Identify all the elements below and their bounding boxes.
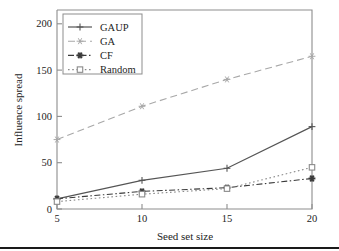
series-line-random	[57, 167, 312, 201]
y-tick-label-50: 50	[42, 157, 53, 168]
data-point-marker-asterisk	[139, 103, 146, 109]
legend-label-random: Random	[100, 64, 136, 75]
data-point-marker-square-open	[139, 191, 144, 196]
data-point-marker-square-open	[224, 186, 229, 191]
series-layer	[54, 53, 316, 204]
figure-container: 0 50 100 150 200 5 10 15 20 Seed set siz…	[0, 0, 339, 251]
y-tick-label-200: 200	[36, 18, 52, 29]
x-tick-label-15: 15	[222, 213, 233, 224]
x-axis-title: Seed set size	[157, 230, 213, 242]
y-tick-label-0: 0	[47, 204, 52, 215]
data-point-marker-asterisk	[224, 76, 231, 82]
x-axis-ticks	[57, 204, 312, 209]
y-axis-title: Influence spread	[12, 73, 24, 146]
series-line-cf	[57, 178, 312, 198]
series-gaup	[54, 123, 316, 202]
footer-rule	[0, 247, 339, 249]
series-random	[54, 165, 314, 205]
data-point-marker-plus	[224, 165, 231, 172]
legend-label-cf: CF	[100, 50, 113, 61]
data-point-marker-plus	[309, 123, 316, 130]
data-point-marker-square-open	[77, 67, 82, 72]
x-tick-label-10: 10	[137, 213, 148, 224]
y-axis-ticks	[57, 24, 62, 209]
x-tick-label-5: 5	[54, 213, 59, 224]
x-tick-label-20: 20	[307, 213, 318, 224]
series-line-gaup	[57, 127, 312, 199]
legend-label-gaup: GAUP	[100, 22, 129, 33]
data-point-marker-plus	[139, 177, 146, 184]
data-point-marker-square-open	[54, 199, 59, 204]
series-cf	[54, 176, 316, 202]
y-tick-label-100: 100	[36, 111, 52, 122]
legend-label-ga: GA	[100, 36, 116, 47]
y-tick-label-150: 150	[36, 65, 52, 76]
data-point-marker-square-open	[309, 165, 314, 170]
influence-spread-line-chart: 0 50 100 150 200 5 10 15 20 Seed set siz…	[0, 0, 339, 251]
